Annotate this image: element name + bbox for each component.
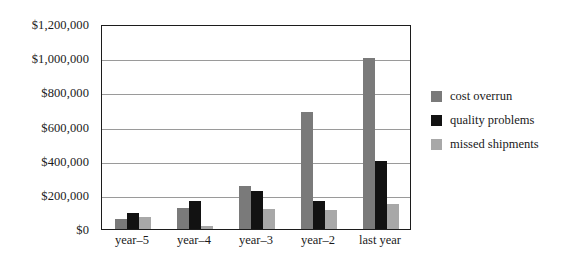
bar-group	[301, 26, 337, 229]
legend-swatch-icon	[431, 91, 442, 102]
legend-item[interactable]: cost overrun	[431, 86, 566, 107]
legend-swatch-icon	[431, 139, 442, 150]
bar	[325, 210, 337, 229]
x-tick-label: year–3	[239, 233, 273, 248]
y-tick-label: $200,000	[41, 188, 89, 203]
y-axis: $0$200,000$400,000$600,000$800,000$1,000…	[0, 0, 97, 278]
x-tick-label: last year	[359, 233, 401, 248]
legend-item[interactable]: missed shipments	[431, 134, 566, 155]
bar	[189, 201, 201, 229]
bar	[251, 191, 263, 229]
y-tick-label: $1,000,000	[32, 52, 89, 67]
legend-swatch-icon	[431, 115, 442, 126]
bar	[301, 112, 313, 229]
bar	[387, 204, 399, 229]
y-tick-label: $600,000	[41, 120, 89, 135]
bar	[115, 219, 127, 229]
legend-label: cost overrun	[450, 90, 512, 103]
x-tick-label: year–5	[115, 233, 149, 248]
y-tick-label: $400,000	[41, 154, 89, 169]
bar-group	[177, 26, 213, 229]
bar	[177, 208, 189, 229]
x-tick-label: year–4	[177, 233, 211, 248]
bar-chart-figure: $0$200,000$400,000$600,000$800,000$1,000…	[0, 0, 568, 278]
bar	[139, 217, 151, 229]
legend-item[interactable]: quality problems	[431, 110, 566, 131]
bar	[313, 201, 325, 229]
bar-group	[363, 26, 399, 229]
bar	[375, 161, 387, 229]
bar-group	[115, 26, 151, 229]
bar	[363, 58, 375, 229]
x-axis: year–5year–4year–3year–2last year	[101, 233, 411, 259]
y-tick-label: $800,000	[41, 86, 89, 101]
chart-legend: cost overrunquality problemsmissed shipm…	[431, 86, 566, 158]
bar	[263, 209, 275, 229]
bars-layer	[102, 26, 410, 229]
bar-group	[239, 26, 275, 229]
legend-label: missed shipments	[450, 138, 539, 151]
x-tick-label: year–2	[301, 233, 335, 248]
y-tick-label: $1,200,000	[32, 18, 89, 33]
bar	[239, 186, 251, 229]
plot-area	[101, 25, 411, 230]
bar	[201, 226, 213, 229]
legend-label: quality problems	[450, 114, 534, 127]
bar	[127, 213, 139, 229]
y-tick-label: $0	[76, 223, 89, 238]
